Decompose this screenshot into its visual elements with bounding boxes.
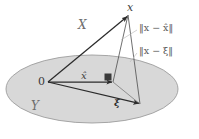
label-projection-xhat: x̂ [81, 71, 87, 81]
label-point-xi: ξ [114, 98, 120, 108]
projection-diagram: x X Y 0 x̂ ξ ‖x − x̂‖ ‖x − ξ‖ [0, 0, 199, 139]
label-ambient-space-X: X [78, 19, 87, 31]
label-norm-x-minus-xi: ‖x − ξ‖ [139, 46, 173, 56]
label-norm-x-minus-xhat: ‖x − x̂‖ [139, 23, 173, 33]
label-subspace-Y: Y [31, 100, 39, 112]
label-origin: 0 [38, 76, 45, 87]
right-angle-marker [105, 74, 112, 81]
diagram-canvas [0, 0, 199, 139]
label-point-x: x [127, 2, 133, 13]
